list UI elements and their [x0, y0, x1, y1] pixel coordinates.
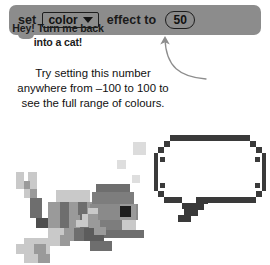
speech-bubble-text: Hey! Turn me back into a cat! [12, 22, 104, 49]
speech-bubble-line-1: Hey! Turn me back [12, 22, 104, 36]
effect-value-input[interactable]: 50 [165, 11, 195, 29]
block-label-effect-to: effect to [107, 13, 157, 27]
speech-bubble-fill [158, 141, 262, 197]
annotation-text: Try setting this number anywhere from –1… [0, 66, 186, 111]
annotation-line-1: Try setting this number [0, 66, 186, 81]
speech-bubble-line-2: into a cat! [12, 36, 104, 50]
sprite-upper-fin [16, 172, 48, 228]
speech-bubble [152, 133, 268, 225]
sprite-lower-fin [16, 235, 70, 263]
annotation-line-2: anywhere from –100 to 100 to [0, 81, 186, 96]
annotation-line-3: see the full range of colours. [0, 96, 186, 111]
pixelated-fish-sprite [4, 130, 156, 265]
